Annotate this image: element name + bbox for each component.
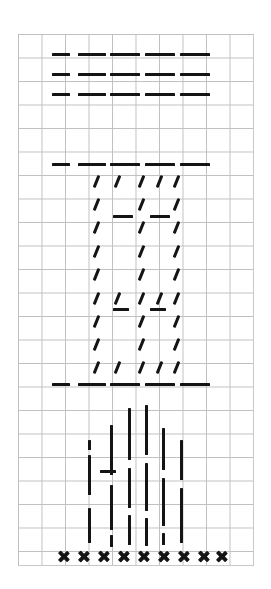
x-mark-icon [57, 550, 70, 563]
x-mark-icon [197, 550, 210, 563]
x-mark-icon [215, 550, 228, 563]
x-mark-icon [177, 550, 190, 563]
x-mark-icon [137, 550, 150, 563]
ink-strokes-layer [0, 0, 271, 589]
x-mark-icon [157, 550, 170, 563]
x-mark-icon [97, 550, 110, 563]
x-mark-icon [117, 550, 130, 563]
band-x-marks [0, 0, 271, 589]
worksheet-sheet [0, 0, 271, 589]
x-mark-icon [77, 550, 90, 563]
